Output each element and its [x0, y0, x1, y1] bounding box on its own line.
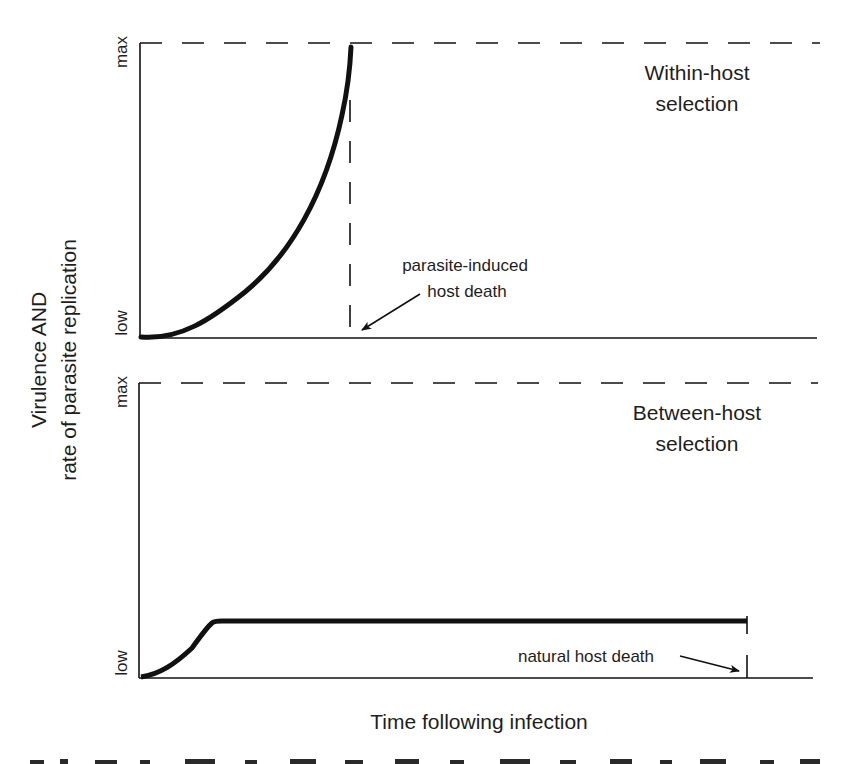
annotation: natural host death	[518, 647, 654, 666]
annotation-line1: parasite-induced	[402, 256, 528, 275]
tick-low: low	[112, 650, 131, 676]
tick-max: max	[112, 375, 131, 408]
panel-title-line1: Between-host	[633, 401, 762, 424]
annotation-line2: host death	[427, 282, 506, 301]
within-host-curve	[141, 47, 351, 337]
panel-title-line2: selection	[656, 92, 739, 115]
between-host-curve	[141, 621, 747, 677]
y-axis-label: Virulence AND rate of parasite replicati…	[27, 239, 80, 481]
panel-between-host: max low Between-host selection natural h…	[112, 375, 818, 678]
y-axis-label-line2: rate of parasite replication	[57, 239, 80, 481]
panel-title-line2: selection	[656, 432, 739, 455]
clipped-caption-line	[30, 759, 820, 764]
tick-low: low	[112, 310, 131, 336]
tick-max: max	[112, 35, 131, 68]
figure-canvas: Virulence AND rate of parasite replicati…	[0, 0, 845, 764]
arrow-icon	[362, 294, 420, 330]
y-axis-label-line1: Virulence AND	[27, 292, 50, 428]
arrow-icon	[680, 656, 739, 671]
panel-title-line1: Within-host	[644, 61, 749, 84]
x-axis-label: Time following infection	[370, 710, 588, 733]
panel-within-host: max low Within-host selection parasite-i…	[112, 35, 820, 338]
